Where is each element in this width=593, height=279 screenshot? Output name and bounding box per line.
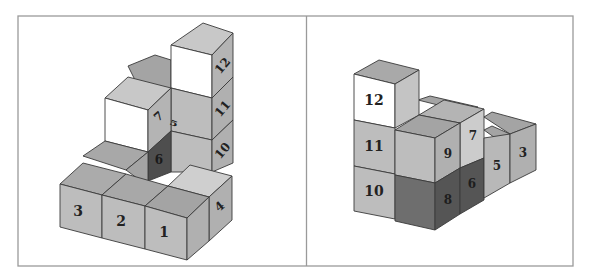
right-label-7: 7 — [469, 129, 477, 143]
left-label-6: 6 — [155, 153, 163, 167]
right-view: 12 11 10 9 7 8 6 5 3 — [354, 60, 536, 230]
right-label-5: 5 — [493, 159, 501, 173]
right-label-11: 11 — [364, 138, 383, 154]
diagram-canvas: 3 2 1 4 5 6 7 12 11 10 — [0, 0, 593, 279]
right-label-12: 12 — [364, 92, 383, 108]
left-view: 3 2 1 4 5 6 7 12 11 10 — [60, 23, 233, 260]
right-c9-front — [395, 130, 435, 183]
right-label-9: 9 — [444, 147, 452, 161]
right-label-10: 10 — [364, 183, 384, 199]
left-label-3: 3 — [73, 203, 83, 219]
right-label-3: 3 — [519, 146, 527, 160]
left-label-2: 2 — [116, 213, 126, 229]
right-label-8: 8 — [444, 193, 452, 207]
right-c8-front — [395, 175, 435, 230]
left-label-1: 1 — [159, 224, 169, 240]
right-label-6: 6 — [468, 177, 476, 191]
